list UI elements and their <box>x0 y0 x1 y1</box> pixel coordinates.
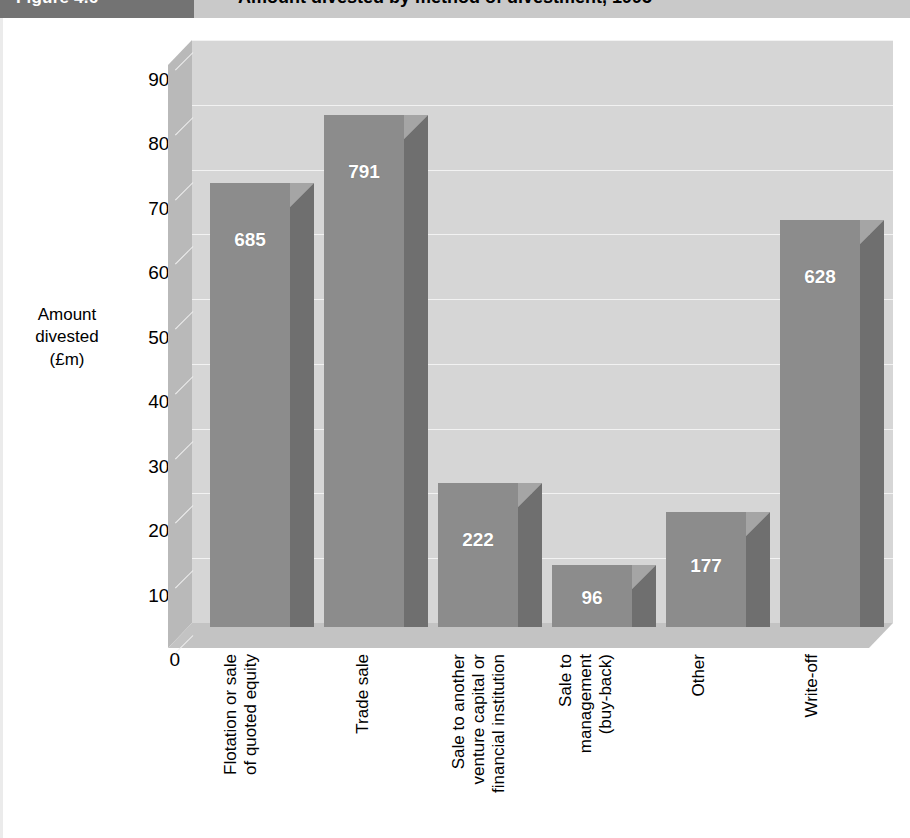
bar-side-face <box>290 183 314 627</box>
x-label-flotation-or-sale-of-quoted-equity: Flotation or sale of quoted equity <box>222 654 262 838</box>
bar-other[interactable]: 177 <box>666 512 746 627</box>
y-axis-title: Amount divested (£m) <box>8 304 126 371</box>
y-axis-title-line-3: (£m) <box>8 349 126 371</box>
bar-value-label: 177 <box>666 555 746 577</box>
bar-value-label: 685 <box>210 229 290 251</box>
bar-front-face <box>324 115 404 627</box>
gridline-700 <box>192 170 893 171</box>
gridline-900 <box>192 40 893 41</box>
bar-sale-to-management-buy-back[interactable]: 96 <box>552 565 632 627</box>
bar-value-label: 628 <box>780 266 860 288</box>
x-label-line: Flotation or sale <box>222 654 239 775</box>
figure-title: Amount divested by method of divestment,… <box>238 0 652 8</box>
x-label-sale-to-management-buy-back: Sale to management (buy-back) <box>557 654 617 838</box>
x-axis-category-labels: Flotation or sale of quoted equity Trade… <box>0 654 910 838</box>
bar-flotation-or-sale-of-quoted-equity[interactable]: 685 <box>210 183 290 627</box>
x-label-line: Trade sale <box>354 654 371 734</box>
x-label-line: Write-off <box>803 654 820 718</box>
bar-trade-sale[interactable]: 791 <box>324 115 404 627</box>
y-axis-title-line-1: Amount <box>8 304 126 326</box>
bar-side-face <box>518 483 542 627</box>
x-label-other: Other <box>690 654 710 838</box>
x-label-sale-to-another-venture-capital-or-financial-institution: Sale to another venture capital or finan… <box>450 654 510 838</box>
x-label-line: of quoted equity <box>242 654 259 775</box>
x-label-line: Sale to <box>557 654 574 707</box>
bar-write-off[interactable]: 628 <box>780 220 860 627</box>
x-label-line: management <box>577 654 594 753</box>
bar-value-label: 222 <box>438 529 518 551</box>
y-axis-title-line-2: divested <box>8 326 126 348</box>
plot-area: 685 791 222 96 <box>168 40 894 652</box>
bar-sale-to-another-venture-capital-or-financial-institution[interactable]: 222 <box>438 483 518 627</box>
x-label-line: venture capital or <box>470 654 487 784</box>
bar-value-label: 791 <box>324 161 404 183</box>
x-label-trade-sale: Trade sale <box>354 654 374 838</box>
figure-page: Figure 4.6 Amount divested by method of … <box>0 0 910 838</box>
x-label-line: Sale to another <box>450 654 467 769</box>
x-label-line: Other <box>690 654 707 697</box>
x-label-write-off: Write-off <box>803 654 823 838</box>
chart-container: Amount divested (£m) 900 800 700 600 500… <box>0 18 910 838</box>
gridline-800 <box>192 105 893 106</box>
figure-number-label: Figure 4.6 <box>16 0 98 8</box>
bar-side-face <box>860 220 884 627</box>
x-label-line: financial institution <box>490 654 507 793</box>
x-label-line: (buy-back) <box>597 654 614 734</box>
bar-front-face <box>438 483 518 627</box>
bar-value-label: 96 <box>552 587 632 609</box>
plot-left-wall <box>168 40 193 648</box>
bar-side-face <box>404 115 428 627</box>
